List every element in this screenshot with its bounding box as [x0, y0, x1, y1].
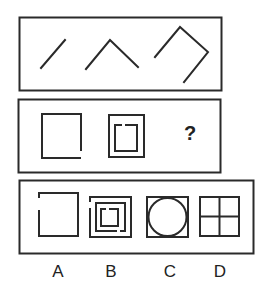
question-mark: ?	[184, 122, 196, 145]
option-c-label[interactable]: C	[164, 262, 176, 282]
option-a-figure	[39, 193, 78, 236]
puzzle-diagram	[0, 0, 272, 295]
option-c-figure	[147, 197, 188, 237]
row1-figure-1	[41, 40, 65, 68]
option-b-figure	[90, 197, 131, 237]
option-a-label[interactable]: A	[52, 262, 63, 282]
row2-figure-1	[42, 114, 81, 158]
option-d-figure	[200, 197, 239, 236]
option-d-label[interactable]: D	[214, 262, 226, 282]
option-b-label[interactable]: B	[105, 262, 116, 282]
row1-box	[20, 18, 222, 91]
row2-figure-2	[109, 115, 144, 157]
row1-figure-3	[155, 27, 208, 82]
row1-figure-2	[86, 40, 138, 69]
